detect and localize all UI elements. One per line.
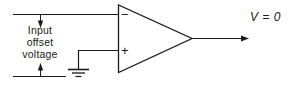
offset-label-line-2: offset [8, 36, 72, 48]
circuit-diagram: Input offset voltage − + V = 0 [0, 0, 299, 89]
noninverting-input-wire [79, 51, 119, 70]
offset-label-line-1: Input [8, 24, 72, 36]
noninverting-input-sign: + [121, 44, 129, 57]
offset-arrow-up-head [38, 63, 43, 71]
output-voltage-label: V = 0 [250, 10, 281, 24]
operational-amplifier-body [119, 5, 193, 73]
input-offset-voltage-label: Input offset voltage [8, 24, 72, 61]
offset-label-line-3: voltage [8, 48, 72, 60]
output-arrow-head [241, 36, 249, 42]
inverting-input-sign: − [121, 8, 129, 21]
